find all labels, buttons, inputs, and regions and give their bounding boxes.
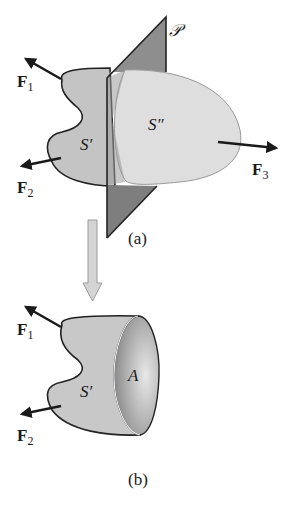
free-body-diagram: 𝒫 S′ S″ F1 F2 F3 (a) A S′ F1 F2 (b)	[0, 0, 298, 508]
figure-b: A S′ F1 F2 (b)	[17, 307, 159, 489]
force-arrow-f1-b	[26, 307, 61, 327]
surface-a-label: A	[127, 366, 139, 385]
region-s-prime	[47, 68, 115, 186]
region-s-double-prime-label: S″	[148, 115, 165, 134]
force-arrow-f1	[26, 59, 61, 79]
force-label-f3: F3	[252, 160, 268, 182]
force-label-f2-b: F2	[17, 426, 33, 448]
region-s-prime-b-label: S′	[80, 382, 93, 401]
caption-b: (b)	[128, 470, 148, 489]
force-label-f1-b: F1	[17, 320, 33, 342]
region-s-double-prime	[114, 70, 240, 185]
region-s-prime-label: S′	[80, 135, 93, 154]
force-label-f1: F1	[17, 72, 33, 94]
transition-arrow	[83, 220, 102, 301]
figure-a: 𝒫 S′ S″ F1 F2 F3 (a)	[17, 17, 276, 248]
plane-label: 𝒫	[169, 21, 186, 40]
caption-a: (a)	[128, 229, 147, 248]
force-label-f2: F2	[17, 178, 33, 200]
